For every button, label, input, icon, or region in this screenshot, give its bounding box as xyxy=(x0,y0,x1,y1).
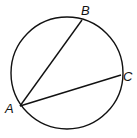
circle xyxy=(11,17,123,129)
chord-ab xyxy=(20,20,82,106)
label-c: C xyxy=(123,69,133,84)
chord-ac xyxy=(20,75,121,106)
circle-diagram: A B C xyxy=(0,0,137,138)
label-a: A xyxy=(4,101,14,116)
label-b: B xyxy=(81,3,90,18)
